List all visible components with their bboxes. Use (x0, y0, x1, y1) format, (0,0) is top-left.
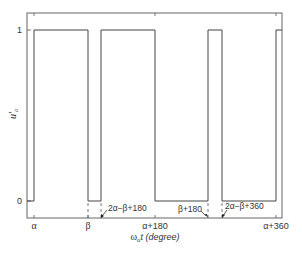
waveform-line (27, 30, 282, 201)
annotation-2a-b-360: 2α−β+360 (225, 201, 264, 211)
x-tick-label-alpha360: α+360 (263, 221, 288, 231)
arrowhead-icon (222, 214, 225, 218)
y-tick-label-0: 0 (17, 196, 22, 206)
annotation-2a-b-180: 2α−β+180 (108, 203, 147, 213)
annotation-b-180: β+180 (178, 204, 202, 214)
chart: 1 0 α β α+180 α+360 ωot (degree) u′a 2α−… (0, 0, 302, 254)
x-axis-label-rest: t (degree) (140, 232, 179, 242)
y-tick-label-1: 1 (17, 25, 22, 35)
y-axis-label: u′a (7, 109, 19, 119)
arrow-2a-b-180 (102, 210, 107, 216)
svg-text:u′a: u′a (7, 109, 19, 119)
y-axis-label-sub: a (13, 109, 19, 112)
x-tick-label-alpha180: α+180 (142, 221, 167, 231)
x-tick-label-alpha: α (31, 220, 37, 231)
x-axis-label: ωot (degree) (131, 231, 180, 243)
x-tick-label-beta: β (85, 220, 90, 231)
